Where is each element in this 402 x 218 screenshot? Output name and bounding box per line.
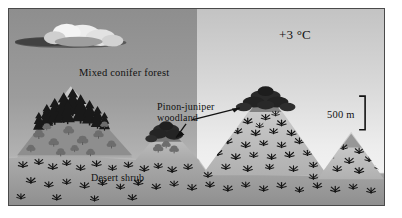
right-mountain xyxy=(188,86,347,175)
temperature-label: +3 °C xyxy=(279,27,311,43)
mixed-conifer-forest-label: Mixed conifer forest xyxy=(79,67,169,78)
scale-bar-label: 500 m xyxy=(327,109,355,120)
figure-frame: +3 °C Mixed conifer forest Pinon-juniper… xyxy=(8,8,385,206)
woodland-cap-right xyxy=(236,86,296,111)
scale-bar xyxy=(359,96,365,130)
pinon-juniper-label-line2: woodland xyxy=(157,112,198,123)
center-hill xyxy=(128,121,208,161)
cloud-icon xyxy=(15,24,126,48)
desert-shrub-label: Desert shrub xyxy=(91,172,144,183)
figure-container: +3 °C Mixed conifer forest Pinon-juniper… xyxy=(0,0,402,218)
pinon-juniper-label-line1: Pinon-juniper xyxy=(157,101,215,112)
left-mountain xyxy=(9,86,148,159)
